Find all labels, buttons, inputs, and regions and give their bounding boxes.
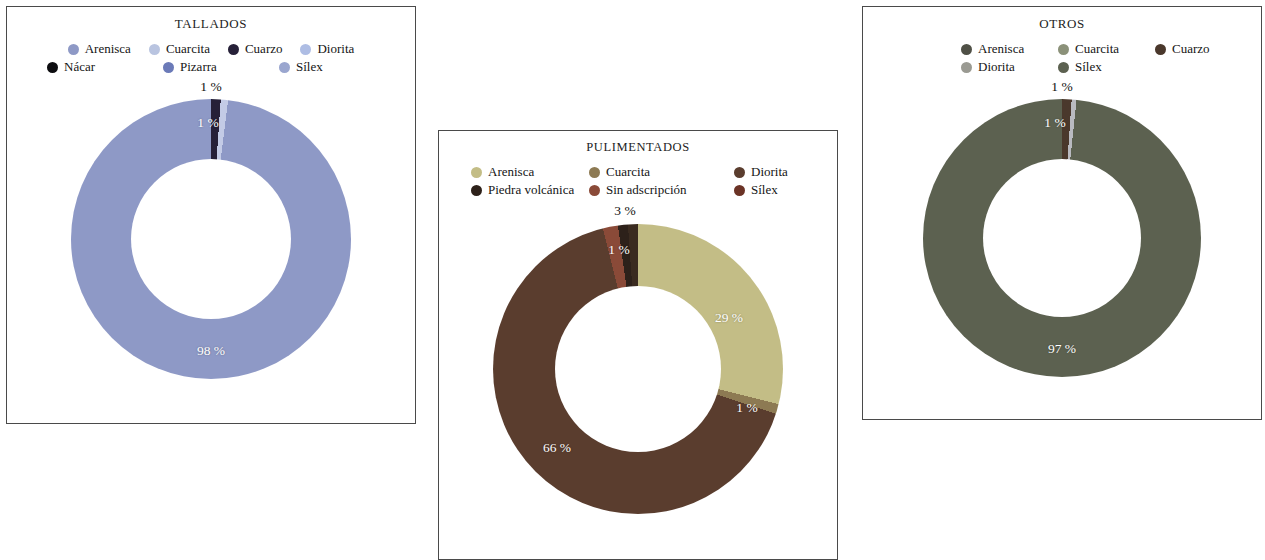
slice-outside-label-cuarzo: 1 % (1051, 79, 1072, 95)
legend-swatch-icon (300, 44, 311, 55)
legend-item-piedra-volcanica[interactable]: Piedra volcánica (471, 182, 589, 198)
legend-swatch-icon (68, 44, 79, 55)
legend-label: Cuarcita (606, 164, 650, 180)
legend-item-diorita[interactable]: Diorita (300, 41, 354, 57)
legend-label: Cuarcita (1075, 41, 1119, 57)
legend-swatch-icon (589, 185, 600, 196)
legend-label: Sin adscripción (606, 182, 687, 198)
legend-swatch-icon (149, 44, 160, 55)
donut-hole (131, 159, 291, 319)
legend-label: Diorita (978, 59, 1015, 75)
slice-label-diorita: 66 % (543, 440, 571, 456)
legend-swatch-icon (734, 167, 745, 178)
legend-swatch-icon (1058, 44, 1069, 55)
legend-row: Diorita Sílex (877, 59, 1247, 75)
legend-label: Sílex (296, 59, 323, 75)
donut-hole (555, 286, 721, 452)
legend-label: Arenisca (978, 41, 1024, 57)
legend-label: Nácar (64, 59, 95, 75)
legend-item-sin-adscripcion[interactable]: Sin adscripción (589, 182, 734, 198)
legend-item-diorita[interactable]: Diorita (734, 164, 788, 180)
legend-label: Cuarzo (245, 41, 283, 57)
slice-label-silex: 97 % (1048, 341, 1076, 357)
legend-item-arenisca[interactable]: Arenisca (961, 41, 1058, 57)
legend-item-arenisca[interactable]: Arenisca (471, 164, 589, 180)
chart-panel-pulimentados: PULIMENTADOS Arenisca Cuarcita Diorita P… (438, 130, 838, 560)
legend-swatch-icon (228, 44, 239, 55)
legend-swatch-icon (471, 185, 482, 196)
legend-row: Arenisca Cuarcita Cuarzo (877, 41, 1247, 59)
legend-label: Arenisca (488, 164, 534, 180)
legend-swatch-icon (589, 167, 600, 178)
legend-item-cuarcita[interactable]: Cuarcita (589, 164, 734, 180)
legend-pulimentados: Arenisca Cuarcita Diorita Piedra volcáni… (439, 164, 837, 198)
legend-item-cuarcita[interactable]: Cuarcita (1058, 41, 1155, 57)
legend-item-silex[interactable]: Sílex (1058, 59, 1102, 75)
chart-panel-tallados: TALLADOS Arenisca Cuarcita Cuarzo Diorit… (6, 6, 416, 424)
legend-swatch-icon (163, 62, 174, 73)
legend-item-diorita[interactable]: Diorita (961, 59, 1058, 75)
legend-item-cuarzo[interactable]: Cuarzo (228, 41, 283, 57)
slice-label-arenisca: 29 % (715, 310, 743, 326)
legend-otros: Arenisca Cuarcita Cuarzo Diorita Sílex (863, 41, 1261, 75)
legend-swatch-icon (471, 167, 482, 178)
legend-item-pizarra[interactable]: Pizarra (163, 59, 261, 75)
slice-label-piedra-volcanica: 1 % (608, 242, 629, 258)
legend-item-silex[interactable]: Sílex (279, 59, 323, 75)
legend-item-cuarzo[interactable]: Cuarzo (1155, 41, 1210, 57)
legend-item-cuarcita[interactable]: Cuarcita (149, 41, 210, 57)
chart-panel-otros: OTROS Arenisca Cuarcita Cuarzo Diorita (862, 6, 1262, 420)
legend-item-silex[interactable]: Sílex (734, 182, 778, 198)
slice-outside-label-sin-adscripcion: 3 % (614, 203, 635, 219)
legend-label: Sílex (751, 182, 778, 198)
legend-label: Arenisca (85, 41, 131, 57)
legend-swatch-icon (279, 62, 290, 73)
slice-label-cuarzo: 1 % (1044, 115, 1065, 131)
legend-swatch-icon (961, 62, 972, 73)
legend-label: Diorita (751, 164, 788, 180)
legend-label: Cuarcita (166, 41, 210, 57)
slice-label-arenisca: 98 % (197, 343, 225, 359)
legend-label: Pizarra (180, 59, 217, 75)
legend-swatch-icon (734, 185, 745, 196)
donut-chart-tallados: 1 % 1 % 98 % (71, 99, 351, 379)
legend-tallados: Arenisca Cuarcita Cuarzo Diorita Nácar (7, 41, 415, 77)
panel-title-otros: OTROS (863, 16, 1261, 32)
legend-swatch-icon (47, 62, 58, 73)
donut-chart-otros: 1 % 1 % 97 % (923, 99, 1201, 377)
legend-swatch-icon (1155, 44, 1166, 55)
legend-item-nacar[interactable]: Nácar (47, 59, 145, 75)
legend-row: Arenisca Cuarcita Cuarzo Diorita (21, 41, 401, 59)
slice-label-cuarzo: 1 % (197, 115, 218, 131)
legend-item-arenisca[interactable]: Arenisca (68, 41, 131, 57)
panel-title-pulimentados: PULIMENTADOS (439, 140, 837, 155)
donut-chart-pulimentados: 3 % 1 % 29 % 1 % 66 % (493, 224, 783, 514)
slice-outside-label-cuarzo: 1 % (200, 79, 221, 95)
legend-label: Diorita (317, 41, 354, 57)
donut-hole (983, 159, 1141, 317)
panel-title-tallados: TALLADOS (7, 16, 415, 32)
legend-swatch-icon (1058, 62, 1069, 73)
legend-label: Cuarzo (1172, 41, 1210, 57)
legend-row: Nácar Pizarra Sílex (21, 59, 401, 77)
legend-swatch-icon (961, 44, 972, 55)
legend-label: Sílex (1075, 59, 1102, 75)
legend-row: Piedra volcánica Sin adscripción Sílex (447, 182, 829, 198)
legend-label: Piedra volcánica (488, 182, 574, 198)
legend-row: Arenisca Cuarcita Diorita (447, 164, 829, 182)
slice-label-cuarcita: 1 % (736, 400, 757, 416)
